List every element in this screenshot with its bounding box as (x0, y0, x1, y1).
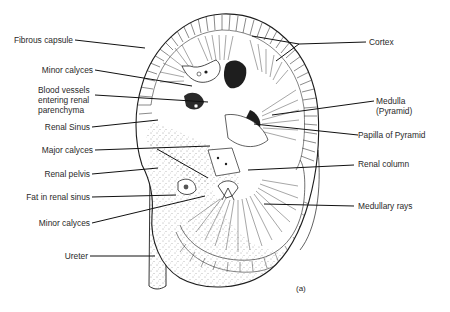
label-renal-pelvis: Renal pelvis (44, 169, 90, 179)
label-blood-vessels-line-3: parenchyma (38, 105, 90, 115)
label-medullary-rays: Medullary rays (358, 201, 412, 211)
label-blood-vessels-line-2: entering renal (38, 95, 90, 105)
label-medulla-line-2: (Pyramid) (376, 106, 412, 116)
label-fibrous-capsule: Fibrous capsule (14, 35, 73, 45)
label-medulla-line-1: Medulla (376, 96, 412, 106)
label-blood-vessels-line-1: Blood vessels (38, 85, 90, 95)
label-minor-calyces-upper: Minor calyces (42, 65, 93, 75)
label-major-calyces: Major calyces (42, 145, 93, 155)
figure-caption: (a) (296, 284, 306, 293)
label-renal-sinus: Renal Sinus (45, 122, 90, 132)
label-fat-in-renal-sinus: Fat in renal sinus (26, 192, 90, 202)
label-blood-vessels: Blood vessels entering renal parenchyma (38, 85, 90, 115)
label-medulla: Medulla (Pyramid) (376, 96, 412, 116)
label-cortex: Cortex (369, 37, 394, 47)
label-renal-column: Renal column (358, 159, 409, 169)
label-ureter: Ureter (65, 251, 88, 261)
label-minor-calyces-lower: Minor calyces (39, 218, 90, 228)
kidney-diagram: Fibrous capsule Minor calyces Blood vess… (0, 0, 450, 312)
label-papilla-of-pyramid: Papilla of Pyramid (358, 130, 426, 140)
